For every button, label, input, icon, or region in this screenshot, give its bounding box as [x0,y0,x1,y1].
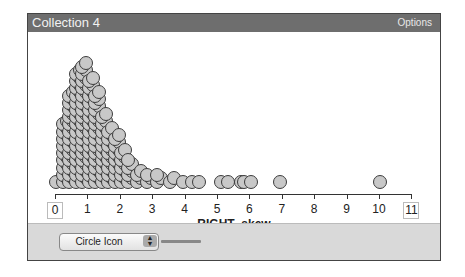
window-title: Collection 4 [32,15,100,30]
data-point[interactable] [86,71,100,85]
x-tick-label: 9 [337,202,357,216]
x-tick [249,194,250,199]
data-point[interactable] [192,175,206,189]
x-tick [217,194,218,199]
footer-bar: Circle Icon ▲▼ [28,223,440,260]
collection-window: Collection 4 Options 01234567891011 RIGH… [27,13,441,261]
x-tick [379,194,380,199]
x-tick-label: 2 [110,202,130,216]
x-tick-label: 3 [142,202,162,216]
x-axis-line [55,194,412,195]
data-point[interactable] [99,107,113,121]
x-tick-label: 10 [369,202,389,216]
x-tick-label: 4 [175,202,195,216]
select-value: Circle Icon [60,236,138,247]
data-point[interactable] [112,128,126,142]
data-point[interactable] [150,168,164,182]
data-point[interactable] [373,175,387,189]
data-point[interactable] [273,175,287,189]
data-point[interactable] [92,85,106,99]
title-bar[interactable]: Collection 4 Options [28,14,440,32]
x-tick [87,194,88,199]
x-tick-label: 8 [304,202,324,216]
data-point[interactable] [121,153,135,167]
x-tick [120,194,121,199]
icon-type-select[interactable]: Circle Icon ▲▼ [59,233,159,251]
dot-plot[interactable]: 01234567891011 RIGHT_skew [28,32,440,225]
x-tick [185,194,186,199]
x-tick-label: 6 [239,202,259,216]
x-tick [55,194,56,199]
x-tick [347,194,348,199]
size-slider[interactable] [161,240,201,243]
select-stepper-icon: ▲▼ [143,235,157,247]
x-tick [411,194,412,199]
x-tick-label: 5 [207,202,227,216]
options-menu[interactable]: Options [398,17,432,28]
x-tick-label: 7 [272,202,292,216]
x-tick-label: 1 [77,202,97,216]
x-tick [152,194,153,199]
data-point[interactable] [244,175,258,189]
x-tick [314,194,315,199]
x-tick [282,194,283,199]
data-point[interactable] [221,175,235,189]
